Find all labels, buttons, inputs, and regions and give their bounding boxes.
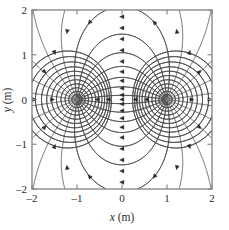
- x-tick-labels: –2–1012: [26, 192, 215, 204]
- x-tick-label: –1: [71, 192, 83, 204]
- x-tick-label: –2: [26, 192, 38, 204]
- x-axis-title: x (m): [109, 211, 135, 224]
- y-tick-label: 0: [22, 94, 28, 106]
- x-tick-label: 2: [209, 192, 215, 204]
- x-tick-label: 1: [164, 192, 170, 204]
- figure-panel: –2–1012 –2–1012 x (m) y (m): [0, 0, 229, 230]
- field-line-plot: –2–1012 –2–1012 x (m) y (m): [0, 0, 229, 230]
- y-tick-label: –1: [15, 138, 27, 150]
- y-axis-title-unit: (m): [1, 88, 14, 105]
- y-tick-label: 2: [22, 4, 28, 16]
- y-axis-title: y (m): [1, 88, 14, 114]
- y-tick-label: 1: [22, 49, 28, 61]
- charge-marker-left: [75, 97, 79, 101]
- y-tick-label: –2: [15, 183, 27, 195]
- x-axis-title-unit: (m): [118, 211, 135, 224]
- y-tick-labels: –2–1012: [15, 4, 28, 195]
- charge-marker-right: [165, 97, 169, 101]
- x-tick-label: 0: [119, 192, 125, 204]
